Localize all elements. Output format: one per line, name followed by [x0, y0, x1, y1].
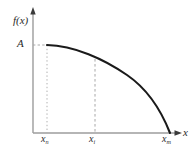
x-tick-label-xi: xi: [89, 134, 95, 144]
y-axis-arrow-icon: [30, 7, 35, 15]
x-tick-label-xn-subscript: n: [46, 138, 49, 145]
y-axis-label: f(x): [13, 15, 28, 26]
x-tick-label-xi-base: x: [89, 133, 93, 144]
x-tick-label-xm: xm: [162, 134, 171, 144]
x-tick-label-xn: xn: [41, 134, 49, 144]
x-axis-label: x: [183, 127, 188, 138]
x-tick-label-xm-subscript: m: [167, 138, 171, 145]
function-plot-figure: f(x) A x xn xi xm: [0, 0, 196, 151]
x-tick-label-xn-base: x: [41, 133, 45, 144]
x-axis-arrow-icon: [175, 130, 183, 135]
plot-canvas: [0, 0, 196, 151]
y-value-label-A: A: [17, 38, 24, 49]
x-tick-label-xi-subscript: i: [94, 138, 96, 145]
x-tick-label-xm-base: x: [162, 133, 166, 144]
function-curve: [47, 45, 170, 133]
